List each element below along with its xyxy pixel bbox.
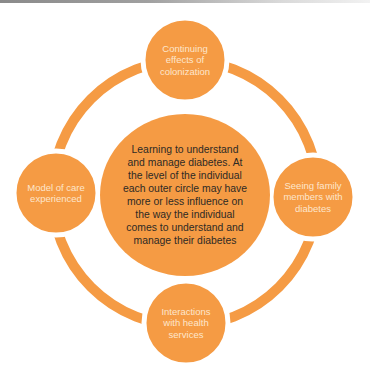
node-left: Model of care experienced <box>14 151 98 235</box>
center-hub-label: Learning to understand and manage diabet… <box>123 143 247 247</box>
node-right: Seeing family members with diabetes <box>271 155 355 239</box>
node-top-label: Continuing effects of colonization <box>160 43 210 78</box>
node-left-label: Model of care experienced <box>27 182 85 205</box>
node-top: Continuing effects of colonization <box>143 18 227 102</box>
node-right-label: Seeing family members with diabetes <box>283 180 342 215</box>
node-bottom-label: Interactions with health services <box>161 306 210 341</box>
center-hub: Learning to understand and manage diabet… <box>100 114 270 276</box>
node-bottom: Interactions with health services <box>144 281 228 365</box>
